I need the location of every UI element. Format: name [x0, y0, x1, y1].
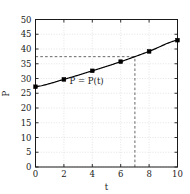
curve-label: P = P(t)	[70, 76, 104, 86]
x-tick-label: 8	[146, 169, 151, 179]
data-point-marker	[119, 60, 123, 64]
data-point-marker	[34, 85, 38, 89]
y-tick-label: 0	[26, 162, 31, 172]
y-tick-label: 35	[21, 59, 32, 69]
x-axis-label: t	[105, 182, 109, 192]
data-point-marker	[147, 49, 151, 53]
x-tick-label: 0	[33, 169, 38, 179]
y-tick-label: 10	[21, 133, 32, 143]
y-tick-label: 50	[21, 15, 32, 25]
data-point-marker	[62, 77, 66, 81]
chart-annotations: P = P(t)	[70, 76, 104, 86]
x-tick-label: 10	[172, 169, 183, 179]
y-axis-label: P	[1, 90, 11, 96]
chart-figure: 0246810 05101520253035404550 t P P = P(t…	[0, 0, 190, 194]
y-tick-label: 25	[21, 88, 32, 98]
x-tick-label: 6	[118, 169, 123, 179]
y-tick-label: 15	[21, 118, 32, 128]
x-tick-label: 4	[90, 169, 95, 179]
line-chart: 0246810 05101520253035404550 t P P = P(t…	[0, 0, 190, 194]
y-tick-label: 20	[21, 103, 32, 113]
y-tick-label: 45	[21, 29, 32, 39]
y-tick-label: 30	[21, 74, 32, 84]
data-point-marker	[90, 69, 94, 73]
y-tick-label: 5	[26, 147, 31, 157]
data-point-marker	[176, 38, 180, 42]
y-tick-label: 40	[21, 44, 32, 54]
x-tick-label: 2	[61, 169, 66, 179]
